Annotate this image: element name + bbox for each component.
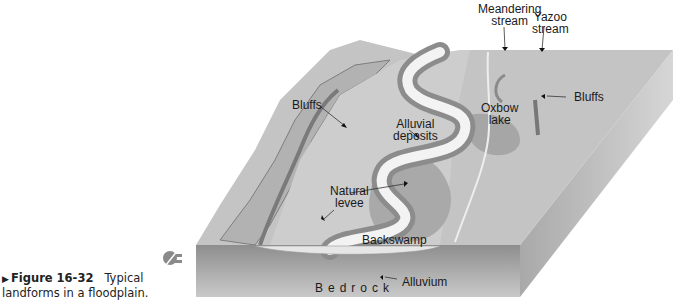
- label-natural-levee: Natural levee: [330, 185, 369, 209]
- label-backswamp: Backswamp: [362, 234, 427, 246]
- label-alluvium: Alluvium: [402, 276, 447, 288]
- caption-marker-icon: ▶: [2, 274, 9, 284]
- label-line: lake: [481, 114, 518, 126]
- floodplain-block-diagram: [0, 0, 680, 306]
- label-alluvial-deposits: Alluvial deposits: [393, 118, 438, 142]
- figure-caption: ▶Figure 16-32 Typical landforms in a flo…: [2, 271, 162, 300]
- label-bluffs-left: Bluffs: [292, 99, 322, 111]
- label-line: levee: [330, 197, 369, 209]
- label-line: stream: [532, 23, 569, 35]
- label-yazoo-stream: Yazoo stream: [532, 11, 569, 35]
- figure-number: Figure 16-32: [11, 271, 93, 285]
- label-line: deposits: [393, 130, 438, 142]
- label-bedrock: Bedrock: [315, 282, 394, 294]
- label-bluffs-right: Bluffs: [574, 91, 604, 103]
- publisher-logo-icon: [162, 250, 182, 270]
- label-oxbow-lake: Oxbow lake: [481, 102, 518, 126]
